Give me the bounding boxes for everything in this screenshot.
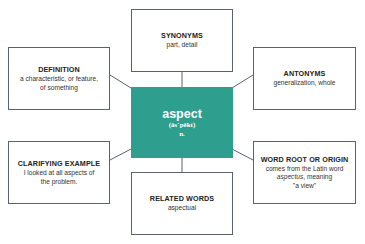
part-of-speech: n. <box>179 130 185 139</box>
antonyms-text: generalization, whole <box>274 79 336 88</box>
latin-word: aspectus <box>277 173 303 180</box>
antonyms-title: ANTONYMS <box>284 69 326 79</box>
word-root-line-3: "a view" <box>293 182 316 191</box>
clarifying-example-title: CLARIFYING EXAMPLE <box>18 159 100 169</box>
synonyms-text: part, detail <box>167 41 198 50</box>
related-words-text: aspectual <box>168 204 196 213</box>
definition-line-2: of something <box>40 84 78 93</box>
word-root-box: WORD ROOT OR ORIGIN comes from the Latin… <box>253 141 356 204</box>
related-words-box: RELATED WORDS aspectual <box>131 172 233 235</box>
related-words-title: RELATED WORDS <box>150 194 214 204</box>
clarifying-example-line-1: I looked at all aspects of <box>24 169 95 178</box>
pronunciation: (ăs´pĕkt) <box>169 121 195 130</box>
definition-box: DEFINITION a characteristic, or feature,… <box>8 47 110 110</box>
synonyms-box: SYNONYMS part, detail <box>131 9 233 72</box>
word-root-line-1: comes from the Latin word <box>266 165 344 174</box>
word-root-title: WORD ROOT OR ORIGIN <box>261 155 349 165</box>
definition-title: DEFINITION <box>38 65 80 75</box>
antonyms-box: ANTONYMS generalization, whole <box>253 47 356 110</box>
center-word: aspect <box>162 107 202 121</box>
word-root-line-2-rest: , meaning <box>303 173 332 180</box>
definition-line-1: a characteristic, or feature, <box>20 75 98 84</box>
clarifying-example-line-2: the problem. <box>41 178 78 187</box>
synonyms-title: SYNONYMS <box>161 31 203 41</box>
center-word-box: aspect (ăs´pĕkt) n. <box>131 87 233 158</box>
word-root-line-2: aspectus, meaning <box>277 173 332 182</box>
clarifying-example-box: CLARIFYING EXAMPLE I looked at all aspec… <box>8 141 110 204</box>
